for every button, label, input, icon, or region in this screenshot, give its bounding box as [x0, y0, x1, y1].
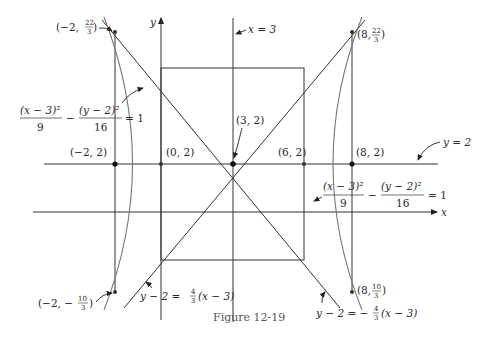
- svg-text:3: 3: [374, 292, 378, 300]
- label-y-2: y = 2: [442, 136, 471, 148]
- svg-text:(x − 3)²: (x − 3)²: [20, 104, 60, 116]
- svg-text:= 1: = 1: [125, 112, 144, 124]
- svg-text:3: 3: [87, 28, 91, 36]
- x-axis-label: x: [441, 206, 447, 218]
- svg-text:(x − 3): (x − 3): [381, 307, 417, 319]
- label-point-8-top: (8, 22 3 ): [357, 27, 385, 44]
- point-m2-2: [112, 161, 117, 166]
- svg-text:(y − 2)²: (y − 2)²: [381, 180, 422, 192]
- svg-text:22: 22: [372, 27, 381, 35]
- svg-text:16: 16: [94, 121, 108, 133]
- svg-text:y − 2 = −: y − 2 = −: [315, 307, 368, 319]
- label-point-m2-2: (−2, 2): [70, 146, 107, 158]
- svg-text:(x − 3): (x − 3): [198, 290, 234, 302]
- label-point-6-2: (6, 2): [278, 146, 306, 158]
- point-8-top: [350, 30, 354, 34]
- svg-text:(8,: (8,: [357, 28, 371, 40]
- label-point-m2-top: (−2, 22 3 ): [56, 19, 97, 36]
- svg-text:9: 9: [37, 121, 44, 133]
- label-asymptote-negative: y − 2 = − 4 3 (x − 3): [315, 305, 417, 322]
- point-m2-top: [113, 30, 117, 34]
- svg-text:= 1: = 1: [428, 189, 447, 201]
- y-axis-label: y: [149, 16, 157, 28]
- figure-caption: Figure 12-19: [213, 311, 285, 324]
- svg-text:10: 10: [372, 283, 381, 291]
- svg-text:(−2,: (−2,: [56, 21, 79, 33]
- label-point-0-2: (0, 2): [166, 146, 194, 158]
- point-0-2: [159, 162, 163, 166]
- svg-text:(8,: (8,: [357, 284, 371, 296]
- svg-text:−: −: [368, 189, 377, 201]
- point-8-bot: [350, 290, 354, 294]
- svg-text:y − 2 =: y − 2 =: [139, 290, 180, 302]
- svg-text:3: 3: [81, 304, 85, 312]
- svg-text:4: 4: [191, 288, 196, 296]
- svg-text:9: 9: [340, 197, 347, 209]
- svg-text:4: 4: [374, 305, 379, 313]
- svg-text:−: −: [66, 112, 75, 124]
- hyperbola-figure: x y x = 3 y = 2 (−2, 22 3 ) (8, 22: [0, 0, 485, 343]
- svg-text:(−2, −: (−2, −: [38, 297, 73, 309]
- svg-text:3: 3: [374, 314, 378, 322]
- point-3-2: [230, 161, 236, 167]
- label-asymptote-positive: y − 2 = 4 3 (x − 3): [139, 288, 234, 305]
- label-x-3: x = 3: [248, 23, 276, 35]
- svg-text:16: 16: [396, 197, 410, 209]
- point-6-2: [302, 162, 306, 166]
- svg-text:10: 10: [78, 295, 87, 303]
- svg-text:): ): [381, 28, 385, 40]
- svg-text:3: 3: [374, 36, 378, 44]
- label-point-3-2: (3, 2): [236, 114, 264, 126]
- label-point-8-2: (8, 2): [356, 146, 384, 158]
- svg-text:): ): [89, 297, 93, 309]
- point-8-2: [349, 161, 354, 166]
- svg-text:(x − 3)²: (x − 3)²: [323, 180, 363, 192]
- svg-text:): ): [93, 21, 97, 33]
- point-m2-bot: [113, 290, 117, 294]
- label-hyperbola-left: (x − 3)² 9 − (y − 2)² 16 = 1: [20, 104, 144, 133]
- svg-text:(y − 2)²: (y − 2)²: [79, 104, 120, 116]
- svg-text:): ): [382, 284, 386, 296]
- label-point-8-bot: (8, 10 3 ): [357, 283, 386, 300]
- label-hyperbola-right: (x − 3)² 9 − (y − 2)² 16 = 1: [323, 180, 447, 209]
- svg-text:3: 3: [191, 297, 195, 305]
- label-point-m2-bot: (−2, − 10 3 ): [38, 295, 93, 312]
